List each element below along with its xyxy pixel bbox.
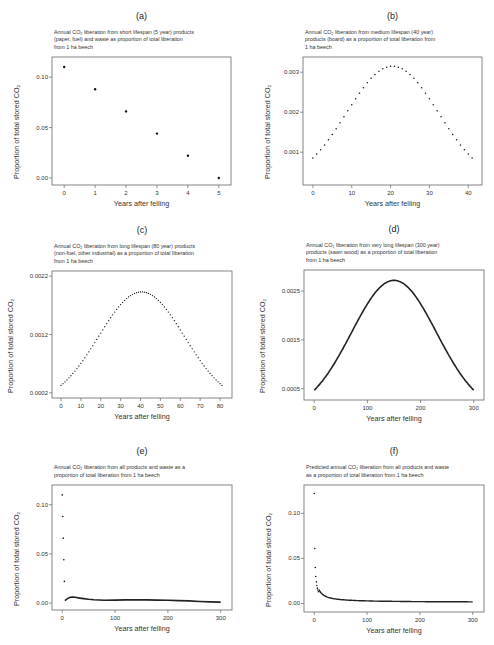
plot-area-f: 01002003000.000.050.10 [0,0,494,645]
svg-text:200: 200 [415,617,426,623]
svg-text:300: 300 [468,617,479,623]
svg-text:0: 0 [313,617,317,623]
svg-text:0.00: 0.00 [288,600,300,606]
svg-text:0.05: 0.05 [288,555,300,561]
svg-text:0.10: 0.10 [288,510,300,516]
svg-text:100: 100 [362,617,373,623]
